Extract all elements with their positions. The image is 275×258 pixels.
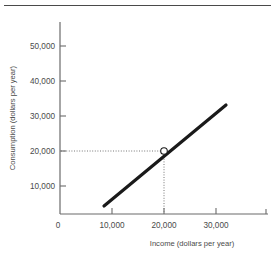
- y-tick-label-20000: 20,000: [30, 147, 55, 156]
- x-axis-title: Income (dollars per year): [150, 239, 235, 248]
- y-axis-title: Consumption (dollars per year): [8, 65, 17, 170]
- y-axis-ticks: [60, 46, 66, 186]
- x-tick-label-20000: 20,000: [151, 221, 176, 230]
- y-tick-label-30000: 30,000: [30, 112, 55, 121]
- x-tick-label-10000: 10,000: [99, 221, 124, 230]
- break-even-point-marker: [161, 148, 168, 155]
- y-tick-label-40000: 40,000: [30, 77, 55, 86]
- y-tick-label-10000: 10,000: [30, 182, 55, 191]
- y-tick-label-50000: 50,000: [30, 42, 55, 51]
- chart-figure: 10,000 20,000 30,000 40,000 50,000 0 10,…: [0, 0, 275, 258]
- x-tick-label-0: 0: [56, 221, 61, 230]
- consumption-function-line: [104, 105, 226, 206]
- consumption-function-chart: 10,000 20,000 30,000 40,000 50,000 0 10,…: [0, 0, 275, 258]
- x-tick-label-30000: 30,000: [203, 221, 228, 230]
- x-axis-ticks: [112, 208, 266, 214]
